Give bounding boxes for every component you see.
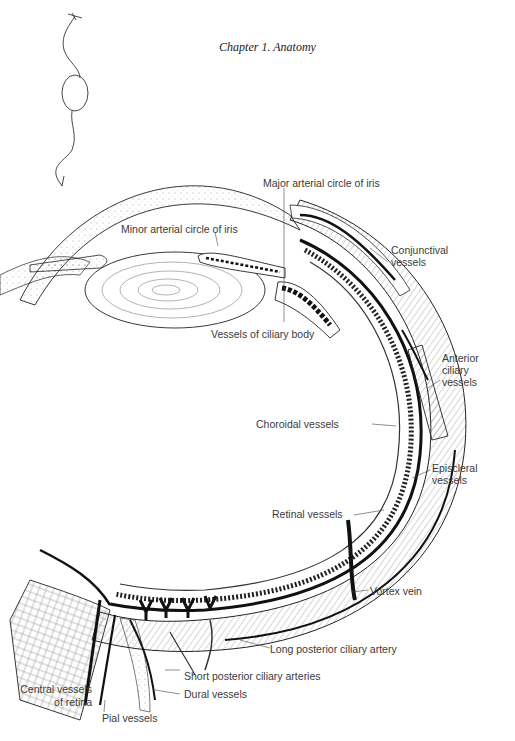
label-central-vessels-line1: Central vessels	[10, 683, 92, 695]
label-anterior-ciliary-line2: ciliary	[442, 364, 469, 376]
label-conjunctival-line1: Conjunctival	[391, 244, 448, 256]
label-minor-arterial-circle: Minor arterial circle of iris	[121, 223, 238, 235]
label-episcleral-line2: vessels	[432, 474, 467, 486]
label-pial-vessels: Pial vessels	[102, 712, 157, 724]
label-retinal-vessels: Retinal vessels	[272, 508, 343, 520]
label-major-arterial-circle: Major arterial circle of iris	[263, 177, 380, 189]
label-dural-vessels: Dural vessels	[184, 688, 247, 700]
label-ciliary-body-vessels: Vessels of ciliary body	[211, 328, 314, 340]
label-anterior-ciliary-line1: Anterior	[442, 352, 479, 364]
label-vortex-vein: Vortex vein	[370, 585, 422, 597]
label-conjunctival-line2: vessels	[391, 256, 426, 268]
label-anterior-ciliary-line3: vessels	[442, 376, 477, 388]
label-central-vessels-line2: of retina	[10, 696, 92, 708]
doodle-icon	[56, 13, 88, 186]
eye-vascular-diagram	[0, 0, 515, 741]
label-long-posterior-ciliary-artery: Long posterior ciliary artery	[270, 643, 397, 655]
label-episcleral-line1: Episcleral	[432, 462, 478, 474]
label-choroidal-vessels: Choroidal vessels	[256, 418, 339, 430]
label-short-posterior-ciliary-arteries: Short posterior ciliary arteries	[184, 670, 321, 682]
